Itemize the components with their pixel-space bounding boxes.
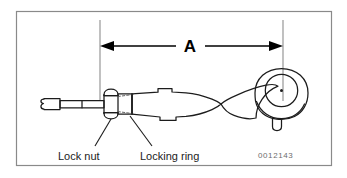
callout-label-locking-ring: Locking ring bbox=[140, 150, 199, 162]
stud-centre-point bbox=[280, 89, 283, 92]
callout-label-lock-nut: Lock nut bbox=[58, 150, 100, 162]
dimension-label-a: A bbox=[184, 37, 196, 56]
technical-figure: A bbox=[0, 0, 347, 178]
diagram-canvas: A bbox=[0, 0, 347, 178]
figure-frame bbox=[17, 12, 332, 166]
part-number: 0012143 bbox=[258, 151, 293, 160]
